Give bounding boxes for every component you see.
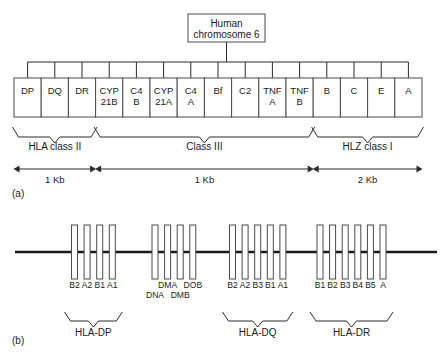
gene-bar[interactable] bbox=[177, 225, 183, 279]
gene-box[interactable]: B bbox=[313, 78, 340, 117]
gene-box-label-line2: 21B bbox=[101, 96, 118, 107]
gene-bar[interactable] bbox=[97, 225, 103, 279]
gene-bar[interactable] bbox=[230, 225, 236, 279]
scale-label: 1 Kb bbox=[45, 174, 65, 185]
gene-bar-label: B2 bbox=[69, 280, 80, 290]
gene-box-outline bbox=[14, 78, 41, 117]
region-group: HLZ class I2 Kb bbox=[312, 127, 424, 185]
gene-bar[interactable] bbox=[317, 225, 323, 279]
gene-box[interactable]: DQ bbox=[41, 78, 68, 117]
gene-bar[interactable] bbox=[255, 225, 261, 279]
gene-box-row: DPDQDRCYP21BC4BCYP21AC4ABfC2TNFATNFBBCEA bbox=[14, 78, 422, 117]
scale-arrow-head-left bbox=[14, 166, 20, 173]
gene-bar[interactable] bbox=[267, 225, 273, 279]
gene-bar-label: B2 bbox=[227, 280, 238, 290]
region-label: Class III bbox=[186, 141, 222, 152]
gene-box[interactable]: C4A bbox=[177, 78, 204, 117]
gene-bar-label: A2 bbox=[240, 280, 251, 290]
region-annotations: HLA class II1 KbClass III1 KbHLZ class I… bbox=[13, 127, 424, 185]
panel-a-label: (a) bbox=[12, 188, 24, 199]
gene-bar[interactable] bbox=[380, 225, 386, 279]
scale-arrow-head-left bbox=[313, 166, 319, 173]
gene-box-label-line1: DP bbox=[21, 85, 34, 96]
region-label: HLA class II bbox=[28, 141, 81, 152]
gene-bar[interactable] bbox=[242, 225, 248, 279]
cluster-bracket bbox=[65, 312, 123, 327]
gene-cluster: DNADMADMBDOB bbox=[146, 225, 202, 300]
gene-bar-label: B1 bbox=[94, 280, 105, 290]
gene-box[interactable]: TNFA bbox=[259, 78, 286, 117]
gene-box-label-line1: C2 bbox=[239, 85, 251, 96]
gene-box[interactable]: E bbox=[368, 78, 395, 117]
gene-bar[interactable] bbox=[72, 225, 78, 279]
gene-box[interactable]: DP bbox=[14, 78, 41, 117]
gene-box-label-line2: 21A bbox=[155, 96, 173, 107]
connector-tree bbox=[28, 42, 409, 78]
gene-bar[interactable] bbox=[367, 225, 373, 279]
region-group: HLA class II1 Kb bbox=[13, 127, 98, 185]
gene-bar[interactable] bbox=[84, 225, 90, 279]
gene-bar-label: B3 bbox=[340, 280, 351, 290]
chromosome-title-line1: Human bbox=[210, 18, 242, 29]
gene-box[interactable]: Bf bbox=[204, 78, 231, 117]
gene-box[interactable]: DR bbox=[68, 78, 95, 117]
gene-box-outline bbox=[395, 78, 422, 117]
cluster-name-label: HLA-DQ bbox=[239, 327, 277, 338]
gene-bar[interactable] bbox=[280, 225, 286, 279]
gene-bar[interactable] bbox=[109, 225, 115, 279]
gene-bar-label: B1 bbox=[315, 280, 326, 290]
cluster-bracket bbox=[310, 312, 393, 327]
gene-box[interactable]: C bbox=[340, 78, 367, 117]
gene-cluster: B2A2B3B1A1HLA-DQ bbox=[223, 225, 293, 338]
gene-bar-label: DOB bbox=[183, 280, 202, 290]
scale-arrow-head-right bbox=[417, 166, 423, 173]
gene-box-label-line1: TNF bbox=[263, 85, 282, 96]
gene-box[interactable]: C4B bbox=[123, 78, 150, 117]
gene-bar-label: A bbox=[380, 280, 386, 290]
gene-box-label-line2: A bbox=[269, 96, 276, 107]
gene-box-label-line1: B bbox=[324, 85, 330, 96]
gene-box-label-line1: A bbox=[405, 85, 412, 96]
gene-bar-label: DMB bbox=[171, 290, 190, 300]
gene-box-label-line1: TNF bbox=[290, 85, 309, 96]
hla-gene-map-figure: Humanchromosome 6DPDQDRCYP21BC4BCYP21AC4… bbox=[0, 0, 448, 357]
gene-box-label-line1: E bbox=[378, 85, 384, 96]
gene-bar[interactable] bbox=[342, 225, 348, 279]
gene-bar-label: B3 bbox=[252, 280, 263, 290]
gene-bar[interactable] bbox=[190, 225, 196, 279]
gene-box[interactable]: TNFB bbox=[286, 78, 313, 117]
gene-box-label-line2: B bbox=[296, 96, 302, 107]
gene-bar[interactable] bbox=[355, 225, 361, 279]
scale-label: 2 Kb bbox=[358, 174, 378, 185]
cluster-name-label: HLA-DR bbox=[333, 327, 370, 338]
gene-box-outline bbox=[68, 78, 95, 117]
gene-bar-label: B5 bbox=[365, 280, 376, 290]
gene-box-label-line1: DR bbox=[75, 85, 89, 96]
gene-bar[interactable] bbox=[330, 225, 336, 279]
gene-box[interactable]: A bbox=[395, 78, 422, 117]
gene-box[interactable]: C2 bbox=[232, 78, 259, 117]
gene-box-outline bbox=[313, 78, 340, 117]
gene-bar[interactable] bbox=[165, 225, 171, 279]
gene-box-outline bbox=[340, 78, 367, 117]
gene-cluster: B2A2B1A1HLA-DP bbox=[65, 225, 123, 338]
figure-canvas: Humanchromosome 6DPDQDRCYP21BC4BCYP21AC4… bbox=[0, 0, 448, 357]
chromosome-title-box: Humanchromosome 6 bbox=[188, 14, 265, 42]
gene-box-label-line2: A bbox=[188, 96, 195, 107]
gene-bar-label: B1 bbox=[265, 280, 276, 290]
gene-box-outline bbox=[41, 78, 68, 117]
gene-cluster: B1B2B3B4B5AHLA-DR bbox=[310, 225, 393, 338]
scale-arrow-head-left bbox=[95, 166, 101, 173]
gene-box-label-line1: C4 bbox=[130, 85, 142, 96]
panel-b-label: (b) bbox=[12, 335, 24, 346]
gene-box[interactable]: CYP21A bbox=[150, 78, 177, 117]
gene-box-label-line1: CYP bbox=[154, 85, 174, 96]
gene-box-outline bbox=[368, 78, 395, 117]
gene-box-label-line1: DQ bbox=[48, 85, 62, 96]
gene-box[interactable]: CYP21B bbox=[96, 78, 123, 117]
gene-bar-label: A2 bbox=[82, 280, 93, 290]
gene-box-outline bbox=[232, 78, 259, 117]
gene-box-label-line1: Bf bbox=[214, 85, 223, 96]
gene-bar[interactable] bbox=[152, 225, 158, 279]
region-group: Class III1 Kb bbox=[94, 127, 315, 185]
